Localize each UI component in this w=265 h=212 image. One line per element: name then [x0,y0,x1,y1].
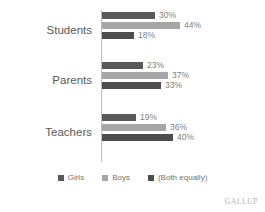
bar-value-label: 40% [177,132,194,143]
category-label-teachers: Teachers [0,126,92,138]
bar-parents-both [102,82,161,89]
category-label-parents: Parents [0,74,92,86]
gallup-bar-chart: Students 30% 44% 18% Parents [0,0,265,212]
legend-swatch-icon [102,175,108,181]
legend-label: Girls [68,173,84,182]
bar-value-label: 44% [184,20,201,31]
bar-teachers-both [102,134,173,141]
legend-label: Boys [112,173,130,182]
legend-label: (Both equally) [158,173,207,182]
bar-value-label: 30% [159,10,176,21]
legend-item-both-equally[interactable]: (Both equally) [148,173,207,182]
bar-students-girls [102,12,155,19]
bar-value-label: 18% [138,30,155,41]
bar-students-both [102,32,134,39]
chart-legend: Girls Boys (Both equally) [0,173,265,182]
bar-value-label: 23% [147,60,164,71]
bar-students-boys [102,22,180,29]
bar-value-label: 19% [140,112,157,123]
bar-teachers-girls [102,114,136,121]
category-label-students: Students [0,24,92,36]
bar-parents-girls [102,62,143,69]
bar-parents-boys [102,72,168,79]
legend-swatch-icon [148,175,154,181]
legend-item-girls[interactable]: Girls [58,173,84,182]
legend-item-boys[interactable]: Boys [102,173,130,182]
bar-value-label: 33% [165,80,182,91]
gallup-watermark: GALLUP [225,197,258,206]
bar-teachers-boys [102,124,166,131]
legend-swatch-icon [58,175,64,181]
plot-area: Students 30% 44% 18% Parents [0,0,265,168]
